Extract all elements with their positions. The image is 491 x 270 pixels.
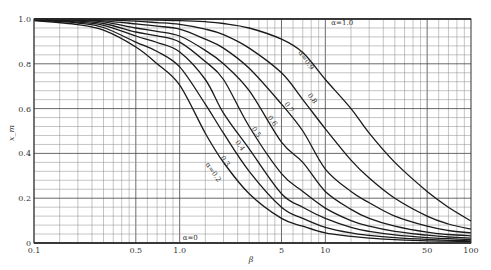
curve-label: α=1.0 — [331, 19, 353, 27]
curve-α=0.9 — [34, 19, 471, 221]
chart: 0.10.51.05105010000.20.40.60.81.0 α=1.0α… — [0, 0, 491, 270]
y-tick-label: 0 — [26, 239, 31, 248]
curve-label: 0.5 — [250, 125, 263, 139]
x-tick-label: 0.5 — [129, 246, 142, 255]
x-tick-label: 100 — [463, 246, 478, 255]
curve-label: 0.3 — [219, 154, 232, 168]
x-tick-label: 50 — [422, 246, 432, 255]
y-tick-label: 0.2 — [18, 194, 31, 203]
curve-label: α=0.9 — [296, 49, 315, 71]
axes: 0.10.51.05105010000.20.40.60.81.0 — [18, 15, 478, 255]
x-tick-label: 10 — [320, 246, 330, 255]
y-tick-label: 0.6 — [18, 105, 31, 114]
curve-label: 0.8 — [305, 92, 318, 106]
y-tick-label: 1.0 — [18, 15, 31, 24]
x-tick-label: 1.0 — [173, 246, 186, 255]
y-tick-label: 0.4 — [18, 149, 31, 158]
curve-α=0.7 — [34, 19, 471, 233]
curve-label: 0.7 — [282, 101, 295, 115]
y-tick-label: 0.8 — [18, 60, 31, 69]
curve-label: 0.6 — [266, 114, 279, 128]
x-tick-label: 5 — [279, 246, 284, 255]
x-axis-label: β — [248, 255, 254, 264]
y-axis-label: x_m — [7, 125, 16, 142]
curve-label: α=0 — [183, 234, 198, 242]
